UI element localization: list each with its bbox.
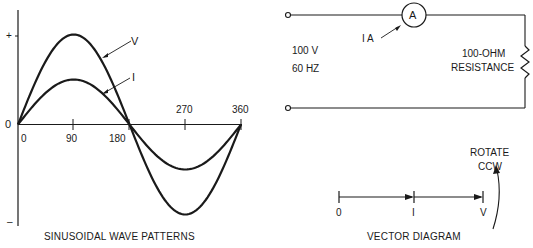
voltage-leader-line bbox=[104, 41, 131, 57]
vector-origin-label: 0 bbox=[336, 208, 342, 218]
bottom-terminal bbox=[286, 106, 291, 111]
x-tick-label-90: 90 bbox=[66, 134, 77, 144]
resistor-zigzag bbox=[521, 46, 529, 78]
top-terminal bbox=[286, 13, 291, 18]
rotation-label-line1: ROTATE bbox=[470, 148, 509, 158]
vector-current-label: I bbox=[412, 208, 415, 218]
wave-chart bbox=[15, 10, 242, 226]
resistor-label-line1: 100-OHM bbox=[462, 49, 505, 59]
source-voltage-label: 100 V bbox=[292, 46, 318, 56]
vector-voltage-label: V bbox=[480, 208, 487, 218]
x-tick-label-360: 360 bbox=[232, 105, 249, 115]
vector-diagram bbox=[339, 165, 500, 229]
resistor-label-line2: RESISTANCE bbox=[451, 63, 514, 73]
ammeter-leader-arrowhead bbox=[395, 25, 401, 31]
wave-caption: SINUSOIDAL WAVE PATTERNS bbox=[44, 232, 195, 242]
current-vector-arrowhead bbox=[405, 194, 414, 200]
y-plus-label: + bbox=[6, 31, 12, 41]
rotation-label-line2: CCW bbox=[478, 162, 502, 172]
rotation-arc bbox=[493, 170, 499, 229]
diagram-canvas bbox=[0, 0, 533, 248]
x-tick-label-180: 180 bbox=[109, 134, 126, 144]
x-tick-label-270: 270 bbox=[176, 105, 193, 115]
current-leader-arrowhead bbox=[102, 89, 108, 94]
source-frequency-label: 60 HZ bbox=[292, 64, 319, 74]
current-curve-label: I bbox=[132, 72, 135, 82]
x-tick-label-0: 0 bbox=[21, 134, 27, 144]
y-minus-label: – bbox=[7, 217, 13, 227]
y-zero-label: 0 bbox=[5, 119, 11, 129]
ammeter-reading-label: I A bbox=[362, 34, 374, 44]
ammeter-symbol: A bbox=[409, 10, 416, 20]
voltage-vector-arrowhead bbox=[474, 194, 483, 200]
voltage-leader-arrowhead bbox=[102, 53, 108, 58]
vector-caption: VECTOR DIAGRAM bbox=[367, 232, 461, 242]
voltage-curve-label: V bbox=[131, 36, 138, 46]
